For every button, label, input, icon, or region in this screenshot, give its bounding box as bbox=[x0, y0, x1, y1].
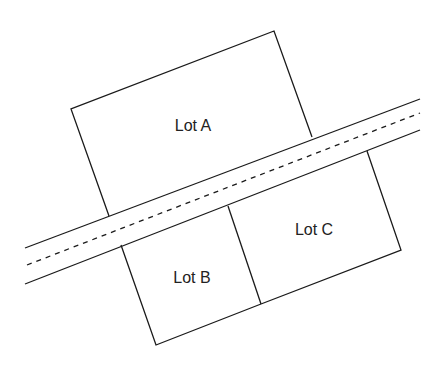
lot-b-label: Lot B bbox=[173, 269, 210, 286]
lot-b: Lot B bbox=[121, 245, 261, 345]
road-centerline bbox=[27, 113, 420, 265]
lot-a: Lot A bbox=[71, 31, 312, 216]
lot-a-label: Lot A bbox=[175, 117, 212, 134]
road bbox=[25, 99, 420, 284]
road-upper-edge bbox=[25, 99, 420, 248]
lot-diagram: Lot A Lot B Lot C bbox=[0, 0, 436, 365]
lot-b-boundary bbox=[121, 245, 261, 345]
lot-b-c-divider bbox=[228, 206, 261, 304]
road-lower-edge bbox=[25, 130, 420, 284]
lot-c-label: Lot C bbox=[295, 221, 333, 238]
lot-c: Lot C bbox=[261, 151, 401, 304]
